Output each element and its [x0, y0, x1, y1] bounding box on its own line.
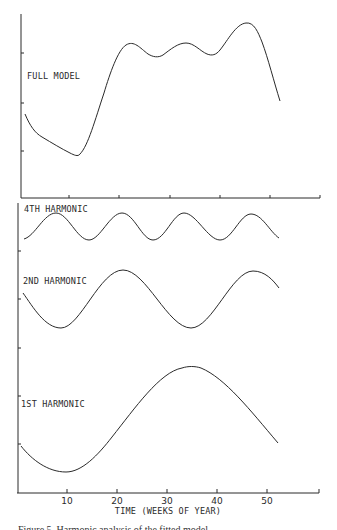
- figure-caption: Figure 5. Harmonic analysis of the fitte…: [18, 522, 318, 530]
- 1st-harmonic-label: 1ST HARMONIC: [21, 399, 85, 409]
- 1st-harmonic-curve: [21, 367, 278, 473]
- x-tick-50: 50: [261, 496, 273, 506]
- x-axis-label: TIME (WEEKS OF YEAR): [115, 506, 221, 516]
- x-tick-labels: 10 20 30 40 50: [61, 496, 273, 506]
- x-tick-40: 40: [211, 496, 223, 506]
- x-tick-10: 10: [61, 496, 73, 506]
- 4th-harmonic-label: 4TH HARMONIC: [24, 204, 88, 214]
- harmonics-figure: FULL MODEL 4TH HARMONIC 2ND HARMONIC 1ST…: [0, 0, 337, 530]
- full-model-label: FULL MODEL: [27, 71, 80, 81]
- 2nd-harmonic-label: 2ND HARMONIC: [23, 276, 87, 286]
- x-tick-20: 20: [111, 496, 123, 506]
- bottom-x-ticks: [67, 489, 319, 493]
- full-model-curve: [25, 23, 280, 156]
- 4th-harmonic-curve: [24, 213, 279, 240]
- x-tick-30: 30: [161, 496, 173, 506]
